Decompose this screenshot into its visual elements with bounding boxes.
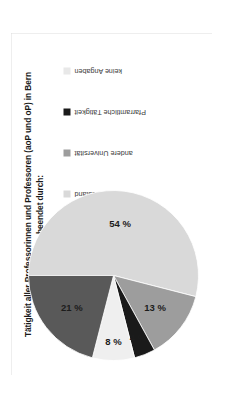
pie-slice-label: 8 % (105, 336, 122, 347)
pie-chart-svg: 54 %13 %4 %8 %21 % (27, 189, 199, 361)
legend-item-pfarramtliche-taetigkeit[interactable]: Pfarramtliche Tätigkeit (63, 91, 145, 132)
legend-item-keine-angaben[interactable]: keine Angaben (63, 50, 145, 91)
legend-label-andere-universitaet: andere Universität (74, 149, 132, 156)
legend-label-keine-angaben: keine Angaben (74, 67, 122, 74)
pie-slice-label: 21 % (61, 302, 83, 313)
pie-slice-label: 54 % (109, 217, 131, 228)
rotated-slide-canvas: Tätigkeit aller Professorinnen und Profe… (11, 33, 212, 375)
pie-slice-label: 13 % (144, 302, 166, 313)
legend-item-andere-universitaet[interactable]: andere Universität (63, 132, 145, 173)
legend-swatch-icon-keine-angaben (63, 67, 70, 74)
legend-label-pfarramtliche-taetigkeit: Pfarramtliche Tätigkeit (74, 108, 145, 115)
pie-chart: 54 %13 %4 %8 %21 % (27, 189, 199, 361)
pie-slice-label: 4 % (129, 331, 146, 342)
legend-swatch-icon-andere-universitaet (63, 149, 70, 156)
legend-swatch-icon-pfarramtliche-taetigkeit (63, 108, 70, 115)
pie-slice-group (28, 190, 198, 360)
slide-frame: Tätigkeit aller Professorinnen und Profe… (11, 33, 212, 375)
